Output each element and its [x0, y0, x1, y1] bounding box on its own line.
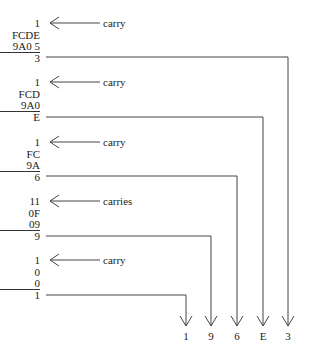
carry-digit: 1	[0, 76, 40, 88]
carry-label: carry	[103, 254, 126, 266]
result-digit: 1	[0, 289, 40, 301]
final-digit: 6	[230, 330, 244, 342]
carry-digit: 11	[0, 195, 40, 207]
result-digit: 6	[0, 171, 40, 183]
result-digit: 9	[0, 230, 40, 242]
carry-digit: 1	[0, 17, 40, 29]
result-digit: 3	[0, 52, 40, 64]
final-digit: E	[256, 330, 270, 342]
diagram-lines	[0, 0, 309, 353]
final-digit: 9	[204, 330, 218, 342]
carry-label: carries	[103, 195, 132, 207]
result-digit: E	[0, 111, 40, 123]
final-digit: 3	[281, 330, 295, 342]
carry-digit: 1	[0, 136, 40, 148]
carry-label: carry	[103, 17, 126, 29]
final-digit: 1	[179, 330, 193, 342]
carry-digit: 1	[0, 254, 40, 266]
carry-label: carry	[103, 76, 126, 88]
carry-label: carry	[103, 136, 126, 148]
